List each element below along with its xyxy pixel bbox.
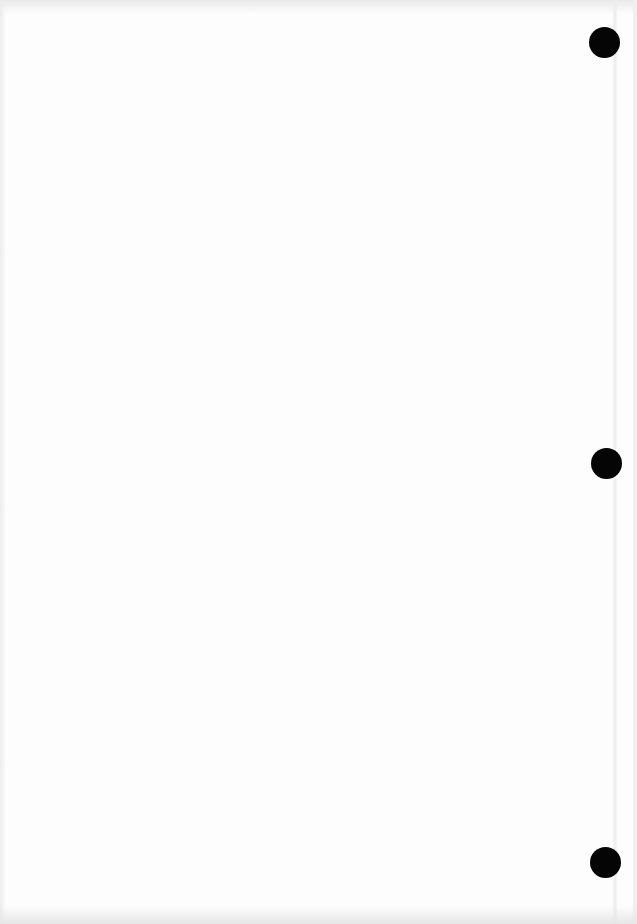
punch-hole-top (589, 27, 620, 58)
scan-edge-shadow-right (633, 0, 637, 924)
scan-edge-shadow-bottom (0, 906, 637, 924)
punch-hole-middle (591, 448, 622, 479)
punch-hole-bottom (590, 847, 621, 878)
scanned-page (0, 0, 637, 924)
scan-edge-shadow-left (0, 0, 6, 924)
scan-edge-shadow-top (0, 0, 637, 14)
